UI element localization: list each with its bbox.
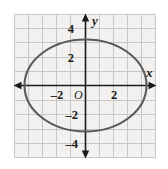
origin-label: O [74,88,83,102]
coordinate-plane-svg: y x O 4 2 –2 –4 –2 2 [0,0,168,169]
y-tick-label-4: 4 [68,22,75,36]
graph-figure: y x O 4 2 –2 –4 –2 2 [0,0,168,169]
y-tick-label-neg-4: –4 [65,137,79,151]
y-tick-label-neg-2: –2 [65,108,79,122]
x-tick-label-neg-2: –2 [50,88,64,102]
y-axis-name-label: y [90,13,98,28]
y-tick-label-2: 2 [68,51,74,65]
x-tick-label-2: 2 [111,88,117,102]
x-axis-name-label: x [145,65,153,80]
